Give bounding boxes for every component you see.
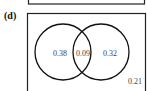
intersection-value: 0.09	[76, 49, 90, 58]
right-only-value: 0.32	[103, 49, 117, 58]
previous-panel-box	[29, 0, 145, 4]
venn-figure: (d) 0.38 0.09 0.32 0.21	[0, 0, 147, 91]
left-only-value: 0.38	[53, 49, 67, 58]
panel-label: (d)	[4, 10, 16, 22]
outside-value: 0.21	[128, 77, 142, 86]
